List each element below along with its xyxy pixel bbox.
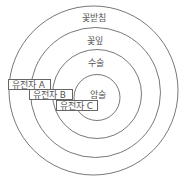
gene-c-box: 유전자 C [56, 100, 98, 111]
stamen-label: 수술 [88, 59, 104, 68]
carpel-label: 암술 [90, 91, 106, 100]
gene-b-box: 유전자 B [29, 89, 73, 100]
sepal-label: 꽃받침 [82, 14, 106, 23]
petal-label: 꽃잎 [87, 37, 103, 46]
